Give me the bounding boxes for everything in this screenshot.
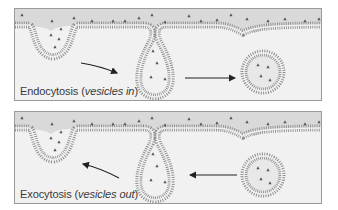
caption-subtitle: vesicles in [85,85,135,97]
exocytosis-panel: Exocytosis (vesicles out) [14,111,322,204]
caption-paren-close: ) [134,85,138,97]
caption-title: Endocytosis [20,85,78,97]
caption-title: Exocytosis [20,188,72,200]
endocytosis-caption: Endocytosis (vesicles in) [20,85,138,97]
arrow-left-curved [83,164,119,178]
arrow-right-curved [81,63,117,73]
caption-subtitle: vesicles out [78,188,134,200]
exocytosis-caption: Exocytosis (vesicles out) [20,188,138,200]
endocytosis-panel: Endocytosis (vesicles in) [14,8,322,101]
caption-paren-close: ) [134,188,138,200]
